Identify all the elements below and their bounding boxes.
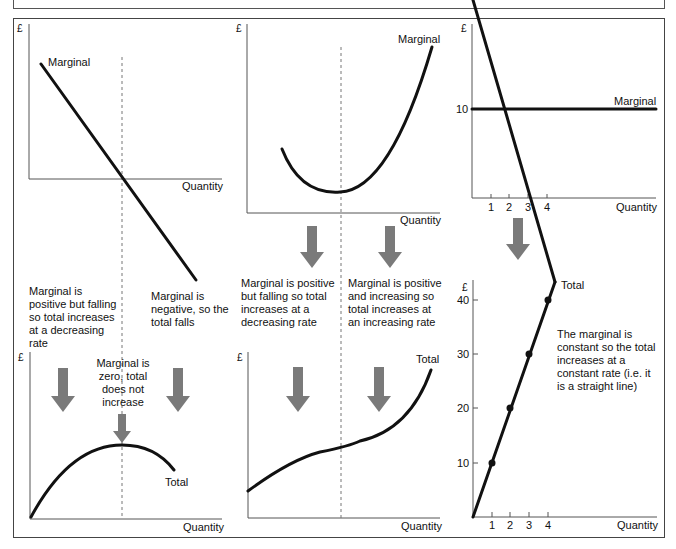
tr-curve-label: Marginal bbox=[614, 95, 656, 108]
bm-total-curve bbox=[248, 370, 431, 491]
tr-x-axis-label: Quantity bbox=[616, 201, 657, 214]
br-x-tick: 4 bbox=[545, 519, 551, 532]
tr-x-tick: 4 bbox=[544, 201, 550, 214]
bm-y-axis-label: £ bbox=[237, 351, 243, 364]
annotation-left-positive-falling: Marginal is positive but falling so tota… bbox=[29, 285, 121, 350]
tr-y-tick-10: 10 bbox=[456, 103, 468, 116]
br-x-tick: 2 bbox=[507, 519, 513, 532]
tr-x-tick: 1 bbox=[488, 201, 494, 214]
arrow-down-icon bbox=[286, 367, 310, 412]
tm-curve-label: Marginal bbox=[398, 33, 440, 46]
br-y-tick: 10 bbox=[457, 457, 469, 470]
arrow-down-icon bbox=[166, 368, 190, 412]
bm-x-axis-label: Quantity bbox=[401, 520, 442, 533]
arrow-down-small-icon bbox=[113, 414, 131, 443]
br-y-tick: 20 bbox=[457, 402, 469, 415]
br-y-tick: 30 bbox=[457, 348, 469, 361]
br-x-tick: 3 bbox=[526, 519, 532, 532]
arrow-down-icon bbox=[506, 218, 530, 260]
br-y-tick: 40 bbox=[457, 294, 469, 307]
br-y-axis-label: £ bbox=[462, 281, 468, 294]
arrow-down-icon bbox=[378, 226, 402, 268]
tl-y-axis-label: £ bbox=[17, 22, 23, 35]
tl-marginal-line bbox=[41, 64, 196, 280]
annotation-constant-marginal: The marginal is constant so the total in… bbox=[557, 328, 657, 393]
br-x-tick: 1 bbox=[489, 519, 495, 532]
diagram-graphics bbox=[0, 0, 676, 549]
annotation-middle-positive-increasing: Marginal is positive and increasing so t… bbox=[348, 277, 443, 329]
tr-x-tick: 3 bbox=[525, 201, 531, 214]
arrow-down-icon bbox=[300, 226, 324, 268]
tr-y-axis-label: £ bbox=[461, 22, 467, 35]
tl-x-axis-label: Quantity bbox=[182, 180, 223, 193]
arrow-down-icon bbox=[51, 368, 75, 412]
bm-curve-label: Total bbox=[416, 353, 439, 366]
bl-y-axis-label: £ bbox=[18, 351, 24, 364]
tl-curve-label: Marginal bbox=[48, 56, 90, 69]
annotation-left-negative: Marginal is negative, so the total falls bbox=[151, 290, 231, 329]
tm-marginal-curve bbox=[282, 47, 432, 192]
br-x-ticks bbox=[492, 512, 548, 517]
bl-x-axis-label: Quantity bbox=[183, 521, 224, 534]
annotation-zero-marginal: Marginal is zero, total does not increas… bbox=[90, 357, 156, 409]
br-y-ticks bbox=[473, 300, 478, 463]
br-x-axis-label: Quantity bbox=[617, 519, 658, 532]
br-curve-label: Total bbox=[561, 279, 584, 292]
annotation-middle-positive-falling: Marginal is positive but falling so tota… bbox=[241, 277, 336, 329]
bl-curve-label: Total bbox=[165, 476, 188, 489]
arrow-down-icon bbox=[367, 367, 391, 412]
tm-y-axis-label: £ bbox=[236, 22, 242, 35]
tr-x-ticks bbox=[491, 194, 547, 198]
bl-total-curve bbox=[31, 445, 174, 517]
tr-x-tick: 2 bbox=[506, 201, 512, 214]
tm-x-axis-label: Quantity bbox=[400, 214, 441, 227]
